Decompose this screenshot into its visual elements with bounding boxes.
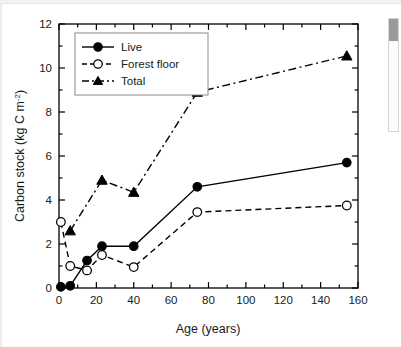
filled-circle-marker-icon <box>83 256 92 265</box>
filled-triangle-marker-icon <box>342 51 352 60</box>
x-tick-label-60: 60 <box>165 294 178 306</box>
y-tick-label-4: 4 <box>46 194 53 206</box>
x-axis-tick-labels: 020406080100120140160 <box>56 294 368 306</box>
y-tick-label-8: 8 <box>46 106 52 118</box>
y-tick-label-6: 6 <box>46 150 52 162</box>
x-axis-title: Age (years) <box>176 322 241 336</box>
x-tick-label-120: 120 <box>274 294 293 306</box>
legend-entry-forest-floor: Forest floor <box>82 58 179 70</box>
y-axis-title-tail: ) <box>13 90 27 94</box>
y-axis-title-main: Carbon stock (kg C m <box>13 101 27 222</box>
open-circle-marker-icon <box>66 262 75 271</box>
y-axis-title: Carbon stock (kg C m-2) <box>13 90 27 222</box>
filled-circle-marker-icon <box>57 283 66 292</box>
filled-circle-marker-icon <box>94 43 102 51</box>
y-tick-label-2: 2 <box>46 238 52 250</box>
figure-root: 020406080100120140160 024681012 Age (yea… <box>0 0 401 347</box>
filled-triangle-marker-icon <box>65 226 75 235</box>
x-tick-label-80: 80 <box>202 294 215 306</box>
filled-circle-marker-icon <box>342 158 351 167</box>
filled-triangle-marker-icon <box>129 187 139 196</box>
filled-circle-marker-icon <box>193 183 202 192</box>
svg-text:Carbon stock (kg C m-2): Carbon stock (kg C m-2) <box>13 90 27 222</box>
open-circle-marker-icon <box>57 218 66 227</box>
x-tick-label-160: 160 <box>348 294 367 306</box>
open-circle-marker-icon <box>94 60 102 68</box>
carbon-stock-line-chart: 020406080100120140160 024681012 Age (yea… <box>0 0 401 347</box>
x-tick-label-140: 140 <box>311 294 330 306</box>
chart-legend: Live Forest floor Total <box>75 33 208 95</box>
filled-circle-marker-icon <box>66 282 75 291</box>
filled-circle-marker-icon <box>98 242 107 251</box>
y-tick-label-12: 12 <box>39 18 52 30</box>
open-circle-marker-icon <box>83 266 92 275</box>
open-circle-marker-icon <box>98 251 107 260</box>
x-tick-label-0: 0 <box>56 294 62 306</box>
x-tick-label-40: 40 <box>127 294 140 306</box>
open-circle-marker-icon <box>193 208 202 217</box>
series-line-forest-floor <box>61 206 347 271</box>
filled-triangle-marker-icon <box>97 175 107 184</box>
series-forest-floor <box>57 201 352 275</box>
y-tick-label-10: 10 <box>39 62 52 74</box>
x-tick-label-20: 20 <box>90 294 103 306</box>
y-tick-label-0: 0 <box>46 282 52 294</box>
filled-circle-marker-icon <box>129 242 138 251</box>
open-circle-marker-icon <box>342 201 351 210</box>
y-axis-tick-labels: 024681012 <box>39 18 52 294</box>
x-tick-label-100: 100 <box>236 294 255 306</box>
legend-label-live: Live <box>121 41 142 53</box>
legend-label-forest-floor: Forest floor <box>121 58 179 70</box>
legend-label-total: Total <box>121 75 145 87</box>
open-circle-marker-icon <box>129 263 138 272</box>
